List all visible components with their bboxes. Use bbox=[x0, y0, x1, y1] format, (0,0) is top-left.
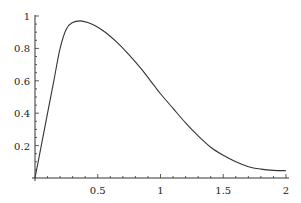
y-tick-label: 0.6 bbox=[14, 76, 30, 87]
x-tick-label: 1 bbox=[157, 185, 163, 196]
x-tick-label: 2 bbox=[283, 185, 289, 196]
data-curve bbox=[35, 21, 286, 178]
x-axis: 0.511.52 bbox=[32, 174, 289, 196]
y-tick-label: 0.4 bbox=[14, 108, 30, 119]
x-tick-label: 0.5 bbox=[90, 185, 106, 196]
y-tick-label: 0.2 bbox=[14, 141, 30, 152]
x-tick-label: 1.5 bbox=[215, 185, 231, 196]
y-tick-label: 1 bbox=[24, 11, 30, 22]
line-chart: 0.511.52 0.20.40.60.81 bbox=[0, 0, 301, 203]
y-axis: 0.20.40.60.81 bbox=[14, 11, 39, 181]
y-tick-label: 0.8 bbox=[14, 43, 30, 54]
